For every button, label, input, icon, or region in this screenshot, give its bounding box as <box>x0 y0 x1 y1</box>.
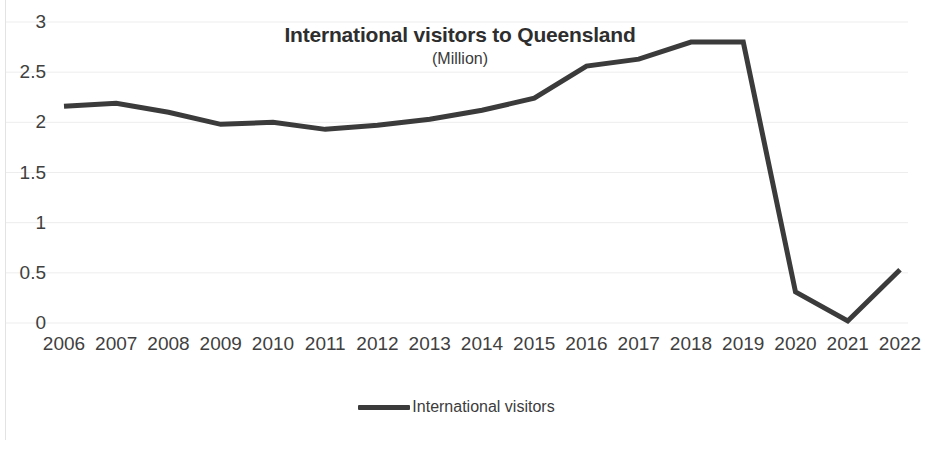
x-axis-tick-label: 2014 <box>456 334 508 353</box>
x-axis-tick-label: 2011 <box>299 334 351 353</box>
x-axis-tick-label: 2015 <box>508 334 560 353</box>
y-axis-tick-label: 1.5 <box>0 163 46 182</box>
x-axis-tick-label: 2009 <box>195 334 247 353</box>
x-axis-tick-label: 2021 <box>822 334 874 353</box>
x-axis-tick-label: 2013 <box>404 334 456 353</box>
x-axis-tick-label: 2020 <box>770 334 822 353</box>
legend-item-international-visitors: International visitors <box>358 398 554 416</box>
x-axis-tick-label: 2008 <box>143 334 195 353</box>
legend-line-swatch-icon <box>358 405 410 410</box>
y-axis-tick-label: 1 <box>0 213 46 232</box>
x-axis-tick-label: 2006 <box>38 334 90 353</box>
chart-legend: International visitors <box>0 398 913 416</box>
y-axis-tick-label: 0 <box>0 313 46 332</box>
x-axis-tick-label: 2017 <box>613 334 665 353</box>
x-axis-tick-label: 2022 <box>874 334 925 353</box>
x-axis-tick-label: 2019 <box>717 334 769 353</box>
y-axis-tick-label: 3 <box>0 12 46 31</box>
x-axis-tick-label: 2018 <box>665 334 717 353</box>
series-line-0 <box>64 42 900 321</box>
y-axis-tick-label: 0.5 <box>0 263 46 282</box>
series-lines <box>64 42 900 321</box>
y-axis-tick-label: 2.5 <box>0 62 46 81</box>
x-axis-tick-label: 2007 <box>90 334 142 353</box>
y-axis-tick-label: 2 <box>0 112 46 131</box>
legend-item-label: International visitors <box>412 398 554 416</box>
x-axis-tick-label: 2010 <box>247 334 299 353</box>
x-axis-tick-label: 2016 <box>561 334 613 353</box>
x-axis-tick-label: 2012 <box>352 334 404 353</box>
